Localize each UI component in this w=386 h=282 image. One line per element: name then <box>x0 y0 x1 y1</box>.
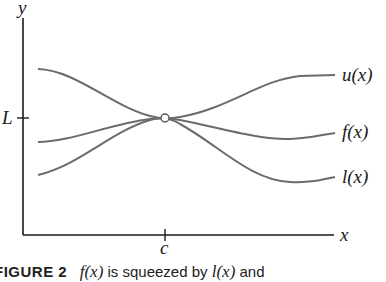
caption-l: l(x) <box>212 262 236 281</box>
curve-l <box>38 118 335 182</box>
y-axis-label: y <box>16 0 27 18</box>
caption-prefix: FIGURE 2 <box>0 263 67 280</box>
x-axis-label: x <box>339 224 349 245</box>
label-l: l(x) <box>342 166 368 188</box>
caption-f: f(x) <box>80 262 104 281</box>
curve-f <box>38 118 335 142</box>
tick-label-c: c <box>160 237 169 258</box>
figure-caption: FIGURE 2 f(x) is squeezed by l(x) and <box>0 262 265 282</box>
label-f: f(x) <box>342 121 368 143</box>
label-u: u(x) <box>342 64 373 86</box>
limit-point <box>161 114 169 122</box>
curve-u <box>38 69 335 118</box>
caption-text: is squeezed by <box>103 263 211 280</box>
caption-text-2: and <box>235 263 264 280</box>
tick-label-L: L <box>1 107 13 128</box>
